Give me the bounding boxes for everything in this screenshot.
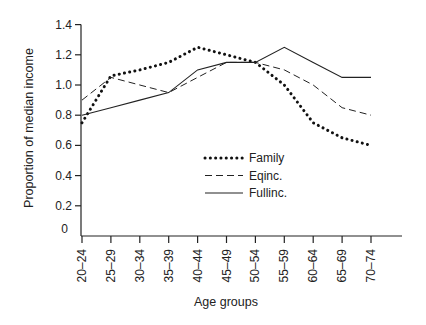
x-tick-label: 30–34 <box>133 249 147 283</box>
x-axis: 20–2425–2930–3435–3940–4445–4950–5455–59… <box>75 236 402 282</box>
y-tick-label: 0.4 <box>55 169 72 183</box>
legend-label: Eqinc. <box>249 169 282 183</box>
y-tick-label: 0.8 <box>55 108 72 122</box>
y-axis-title: Proportion of median income <box>22 48 36 208</box>
y-tick-label: 0 <box>61 222 68 236</box>
series-lines <box>82 47 371 145</box>
x-tick-label: 50–54 <box>248 249 262 283</box>
legend: FamilyEqinc.Fullinc. <box>205 151 287 200</box>
y-tick-label: 1.2 <box>55 48 72 62</box>
legend-label: Fullinc. <box>249 186 287 200</box>
x-tick-label: 45–49 <box>220 249 234 283</box>
x-tick-label: 70–74 <box>364 249 378 283</box>
y-tick-label: 0.6 <box>55 138 72 152</box>
y-tick-label: 1.0 <box>55 78 72 92</box>
y-axis: 00.20.40.60.81.01.21.4 <box>55 18 81 236</box>
x-tick-label: 60–64 <box>306 249 320 283</box>
series-line-fullinc <box>82 47 371 115</box>
x-tick-label: 65–69 <box>335 249 349 283</box>
x-tick-label: 35–39 <box>162 249 176 283</box>
y-tick-label: 1.4 <box>55 18 72 32</box>
x-tick-label: 55–59 <box>277 249 291 283</box>
line-chart: 00.20.40.60.81.01.21.4 20–2425–2930–3435… <box>0 0 426 325</box>
x-tick-label: 20–24 <box>75 249 89 283</box>
x-axis-title: Age groups <box>194 295 258 309</box>
x-tick-label: 25–29 <box>104 249 118 283</box>
legend-label: Family <box>249 151 284 165</box>
x-tick-label: 40–44 <box>191 249 205 283</box>
y-tick-label: 0.2 <box>55 199 72 213</box>
